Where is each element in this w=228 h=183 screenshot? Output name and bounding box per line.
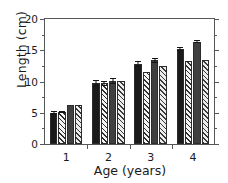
bar bbox=[134, 64, 141, 144]
y-tick-minor bbox=[42, 97, 45, 98]
bar bbox=[58, 112, 65, 144]
error-bar-cap-bottom bbox=[194, 42, 200, 43]
y-tick-major-right bbox=[214, 144, 219, 145]
error-bar bbox=[101, 81, 108, 86]
y-tick-major bbox=[40, 82, 45, 83]
y-tick-major bbox=[40, 50, 45, 51]
error-bar bbox=[109, 78, 116, 84]
error-bar-cap-bottom bbox=[152, 62, 158, 63]
error-bar-cap-bottom bbox=[101, 85, 107, 86]
y-tick-label: 20 bbox=[25, 13, 38, 25]
y-tick-major-right bbox=[214, 113, 219, 114]
y-tick-minor-right bbox=[214, 97, 217, 98]
y-tick-minor-right bbox=[214, 128, 217, 129]
bar bbox=[185, 61, 192, 144]
bar bbox=[193, 42, 200, 145]
y-tick-minor-right bbox=[214, 66, 217, 67]
error-bar bbox=[92, 80, 99, 87]
error-bar-cap-top bbox=[51, 111, 57, 112]
error-bar bbox=[151, 58, 158, 63]
y-tick-label: 15 bbox=[25, 44, 38, 56]
bars-layer bbox=[45, 19, 214, 144]
plot-area: 05101520 1234 bbox=[44, 18, 215, 145]
bar bbox=[67, 105, 74, 144]
error-bar-cap-top bbox=[152, 58, 158, 59]
y-tick-minor bbox=[42, 128, 45, 129]
y-tick-minor bbox=[42, 66, 45, 67]
x-tick bbox=[130, 144, 131, 149]
y-tick-major bbox=[40, 19, 45, 20]
bar bbox=[109, 81, 116, 144]
y-tick-minor bbox=[42, 35, 45, 36]
x-tick bbox=[172, 144, 173, 149]
error-bar-cap-top bbox=[135, 61, 141, 62]
y-tick-major-right bbox=[214, 82, 219, 83]
error-bar bbox=[193, 40, 200, 44]
bar bbox=[159, 66, 166, 144]
x-tick bbox=[87, 144, 88, 149]
error-bar-cap-top bbox=[93, 80, 99, 81]
bar-chart: Length (cm) 05101520 1234 Age (years) bbox=[0, 0, 228, 183]
bar bbox=[177, 49, 184, 144]
error-bar-cap-bottom bbox=[135, 66, 141, 67]
error-bar-cap-top bbox=[110, 78, 116, 79]
x-axis-title: Age (years) bbox=[44, 163, 216, 178]
error-bar-cap-bottom bbox=[177, 50, 183, 51]
bar bbox=[75, 105, 82, 144]
bar bbox=[50, 113, 57, 144]
bar bbox=[117, 81, 124, 144]
error-bar-cap-top bbox=[101, 81, 107, 82]
error-bar-cap-bottom bbox=[59, 112, 65, 113]
error-bar bbox=[50, 111, 57, 114]
y-tick-label: 10 bbox=[25, 76, 38, 88]
error-bar bbox=[134, 61, 141, 67]
error-bar-cap-bottom bbox=[51, 113, 57, 114]
bar bbox=[151, 60, 158, 144]
y-tick-major-right bbox=[214, 19, 219, 20]
y-tick-label: 0 bbox=[31, 138, 38, 150]
error-bar-cap-bottom bbox=[93, 86, 99, 87]
bar bbox=[143, 72, 150, 144]
y-tick-major bbox=[40, 113, 45, 114]
error-bar-cap-bottom bbox=[110, 83, 116, 84]
error-bar bbox=[58, 111, 65, 114]
error-bar bbox=[177, 47, 184, 51]
bar bbox=[101, 83, 108, 144]
error-bar-cap-top bbox=[177, 47, 183, 48]
y-tick-minor-right bbox=[214, 35, 217, 36]
y-tick-label: 5 bbox=[31, 107, 38, 119]
y-tick-major bbox=[40, 144, 45, 145]
error-bar-cap-top bbox=[194, 40, 200, 41]
bar bbox=[202, 60, 209, 144]
y-tick-major-right bbox=[214, 50, 219, 51]
bar bbox=[92, 83, 99, 144]
